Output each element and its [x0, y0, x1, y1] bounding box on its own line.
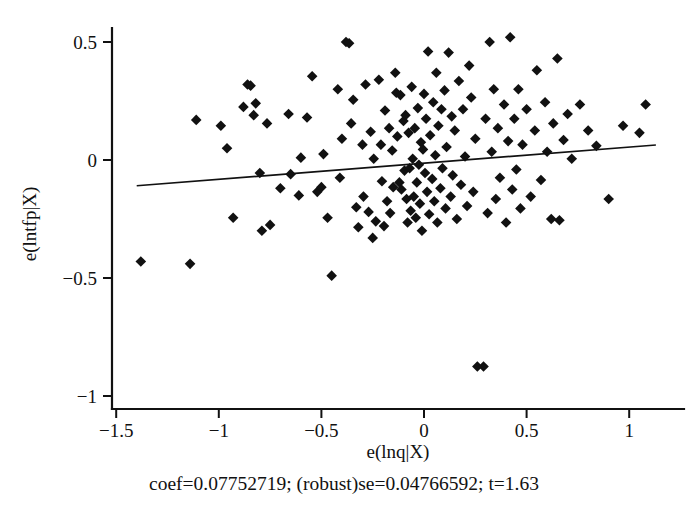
data-point-marker [484, 37, 495, 48]
data-point-marker [507, 184, 518, 195]
data-point-marker [283, 109, 294, 120]
data-point-marker [360, 79, 371, 90]
data-point-marker [449, 125, 460, 136]
data-point-marker [262, 118, 273, 129]
data-point-marker [374, 74, 385, 85]
data-point-marker [478, 361, 489, 372]
data-point-marker [530, 125, 541, 136]
scatter-chart-figure: −1.5−1−0.500.51 0.50−0.5−1 e(lnq|X) e(ln… [0, 0, 688, 527]
data-point-marker [558, 135, 569, 146]
data-point-marker [521, 104, 532, 115]
data-point-marker [425, 130, 436, 141]
data-point-marker [433, 120, 444, 131]
data-point-marker [505, 32, 516, 43]
data-point-marker [548, 118, 559, 129]
data-point-marker [379, 221, 390, 232]
data-point-marker [488, 84, 499, 95]
data-point-marker [351, 202, 362, 213]
data-point-marker [420, 168, 431, 179]
data-point-marker [428, 97, 439, 108]
data-point-marker [415, 198, 426, 209]
data-point-marker [566, 154, 577, 165]
data-point-marker [495, 172, 506, 183]
data-point-marker [390, 67, 401, 78]
data-point-marker [454, 76, 465, 87]
data-point-marker [222, 143, 233, 154]
data-point-marker [337, 133, 348, 144]
data-point-marker [536, 175, 547, 186]
data-point-marker [422, 187, 433, 198]
y-tick-label: −1 [77, 386, 97, 407]
data-point-marker [499, 99, 510, 110]
data-point-marker [370, 216, 381, 227]
data-point-marker [486, 146, 497, 157]
y-tick-label: 0 [88, 150, 98, 171]
data-point-marker [250, 98, 261, 109]
data-point-marker [335, 172, 346, 183]
data-point-marker [437, 163, 448, 174]
data-point-marker [427, 174, 438, 185]
data-point-marker [357, 139, 368, 150]
data-point-marker [456, 179, 467, 190]
data-point-marker [302, 112, 313, 123]
data-point-marker [423, 46, 434, 57]
data-point-marker [326, 270, 337, 281]
data-point-marker [513, 84, 524, 95]
data-point-marker [385, 208, 396, 219]
data-point-marker [435, 183, 446, 194]
data-point-marker [634, 128, 645, 139]
data-point-marker [257, 226, 268, 237]
data-point-marker [482, 208, 493, 219]
data-point-marker [441, 142, 452, 153]
x-axis-title: e(lnq|X) [367, 441, 430, 463]
data-point-marker [368, 154, 379, 165]
data-point-marker [417, 226, 428, 237]
data-point-marker [363, 207, 374, 218]
data-point-marker [322, 213, 333, 224]
data-point-marker [491, 194, 502, 205]
data-point-marker [447, 170, 458, 181]
data-point-marker [377, 176, 388, 187]
data-point-marker [406, 82, 417, 93]
data-point-marker [346, 118, 357, 129]
data-point-marker [421, 113, 432, 124]
y-tick-label: 0.5 [73, 32, 97, 53]
data-point-marker [384, 123, 395, 134]
data-point-marker [307, 71, 318, 82]
data-point-marker [542, 146, 553, 157]
data-point-marker [452, 214, 463, 225]
data-point-marker [216, 120, 227, 131]
data-point-marker [446, 111, 457, 122]
x-tick-label: 0.5 [515, 420, 539, 441]
data-point-marker [443, 47, 454, 58]
data-point-marker [392, 131, 403, 142]
data-point-marker [424, 209, 435, 220]
data-point-marker [296, 152, 307, 163]
data-point-marker [640, 99, 651, 110]
data-point-marker [618, 120, 629, 131]
x-tick-label: −0.5 [304, 420, 338, 441]
data-point-marker [445, 191, 456, 202]
data-point-marker [412, 177, 423, 188]
data-point-marker [554, 215, 565, 226]
data-point-marker [358, 191, 369, 202]
data-point-marker [191, 115, 202, 126]
data-point-marker [509, 113, 520, 124]
data-point-marker [380, 105, 391, 116]
data-point-marker [552, 53, 563, 64]
data-point-marker [517, 139, 528, 150]
y-axis-ticks: 0.50−0.5−1 [63, 32, 112, 407]
data-point-marker [228, 213, 239, 224]
data-point-marker [525, 191, 536, 202]
data-point-marker [436, 104, 447, 115]
x-tick-label: 1 [624, 420, 634, 441]
data-point-marker [419, 89, 430, 100]
data-point-marker [387, 145, 398, 156]
data-point-marker [275, 183, 286, 194]
data-point-marker [464, 60, 475, 71]
data-point-marker [532, 65, 543, 76]
data-point-marker [430, 150, 441, 161]
data-point-marker [365, 126, 376, 137]
data-point-marker [431, 67, 442, 78]
data-point-marker [367, 233, 378, 244]
